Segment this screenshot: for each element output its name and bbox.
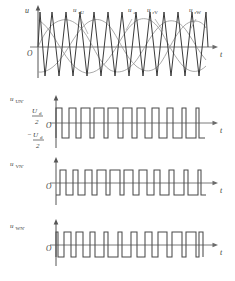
panel4-x-arrow — [213, 243, 219, 247]
panel-u-phase-output: u UN' U d 2 O − U d 2 t — [10, 95, 223, 150]
panel2-level-high-label: U d 2 — [32, 107, 43, 126]
panel1-x-axis-label: t — [220, 50, 223, 59]
svg-text:U: U — [32, 107, 38, 115]
panel-w-phase-output: u WN' O t — [10, 219, 223, 266]
svg-text:WN': WN' — [16, 226, 25, 231]
panel2-x-arrow — [213, 121, 219, 125]
signal-label-u-c: u c — [128, 6, 137, 15]
panel2-y-arrow — [54, 95, 59, 101]
panel1-x-arrow — [213, 45, 219, 49]
panel1-origin-label: O — [27, 49, 33, 58]
svg-text:u: u — [10, 222, 14, 230]
panel2-level-low-label: − U d 2 — [27, 131, 44, 150]
svg-text:VN': VN' — [16, 164, 24, 169]
carrier-triangle — [38, 12, 208, 76]
panel3-y-axis-label: u VN' — [10, 160, 24, 169]
reference-sine-w — [38, 20, 206, 73]
svg-text:u: u — [10, 95, 14, 103]
panel1-y-arrow — [36, 5, 41, 11]
panel-v-phase-output: u VN' O t — [10, 157, 223, 205]
svg-text:u: u — [73, 6, 77, 14]
panel4-x-axis-label: t — [220, 248, 223, 257]
panel1-y-axis-label: u — [25, 6, 29, 15]
svg-text:rW: rW — [195, 10, 202, 15]
panel4-y-axis-label: u WN' — [10, 222, 25, 231]
panel2-origin-label: O — [46, 121, 52, 130]
svg-text:−: − — [27, 131, 32, 139]
svg-text:2: 2 — [36, 142, 40, 150]
reference-sine-v — [38, 19, 206, 73]
panel-carrier-reference: u O t u rU u c u rV u rW — [25, 5, 223, 78]
svg-text:u: u — [10, 160, 14, 168]
svg-text:U: U — [33, 131, 39, 139]
panel3-x-axis-label: t — [220, 186, 223, 195]
svg-text:d: d — [39, 111, 42, 116]
panel3-y-arrow — [54, 157, 59, 163]
reference-sine-u — [38, 20, 206, 72]
panel4-y-arrow — [54, 219, 59, 225]
svg-text:UN': UN' — [16, 99, 24, 104]
svg-text:2: 2 — [35, 118, 39, 126]
svg-text:u: u — [147, 6, 151, 14]
svg-text:u: u — [128, 6, 132, 14]
pwm-waveform-w — [56, 232, 203, 257]
panel4-origin-label: O — [46, 244, 52, 253]
spwm-waveform-figure: u O t u rU u c u rV u rW — [0, 0, 235, 281]
panel2-y-axis-label: u UN' — [10, 95, 24, 104]
pwm-waveform-v — [56, 170, 206, 195]
signal-label-u-rv: u rV — [147, 6, 158, 15]
svg-text:rU: rU — [79, 10, 85, 15]
signal-label-u-ru: u rU — [73, 6, 84, 15]
waveform-svg: u O t u rU u c u rV u rW — [0, 0, 235, 281]
svg-text:d: d — [40, 135, 43, 140]
panel3-origin-label: O — [46, 182, 52, 191]
svg-text:u: u — [189, 6, 193, 14]
signal-label-u-rw: u rW — [189, 6, 201, 15]
panel3-x-arrow — [213, 181, 219, 185]
panel2-x-axis-label: t — [220, 126, 223, 135]
svg-text:rV: rV — [153, 10, 159, 15]
